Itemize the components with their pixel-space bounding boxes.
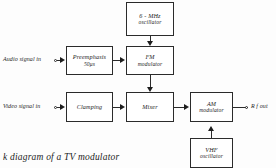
block-vhf-oscillator: VHF oscillator <box>190 138 233 168</box>
block-label-line1: Mixer <box>142 103 158 111</box>
block-label-line2: oscillator <box>200 153 223 160</box>
wire-fm-to-mixer <box>150 75 151 87</box>
block-am-modulator: AM modulator <box>190 92 233 122</box>
block-label-line1: FM <box>145 53 154 61</box>
block-label-line2: modulator <box>199 107 224 114</box>
tv-modulator-block-diagram: 6 - MHz oscillator Preemphasis 50μs FM m… <box>0 0 276 168</box>
arrowhead-down-6mhz-to-fm <box>147 41 153 46</box>
block-label-line2: oscillator <box>139 19 162 26</box>
wire-vhf-to-am <box>211 131 212 138</box>
arrowhead-right-mixer-to-am <box>184 104 189 110</box>
block-clamping: Clamping <box>66 92 113 122</box>
label-video-signal-in: Video signal in <box>3 103 40 109</box>
block-fm-modulator: FM modulator <box>126 46 174 75</box>
arrowhead-right-audio-in <box>60 57 65 63</box>
block-mixer: Mixer <box>126 92 174 122</box>
arrowhead-down-fm-to-mixer <box>147 87 153 92</box>
block-label-line2: 50μs <box>84 61 95 68</box>
block-preemphasis: Preemphasis 50μs <box>66 46 113 75</box>
arrowhead-right-video-in <box>60 104 65 110</box>
arrowhead-right-clamping-to-mixer <box>120 104 125 110</box>
block-label-line1: 6 - MHz <box>139 12 160 20</box>
arrowhead-up-vhf-to-am <box>208 126 214 131</box>
block-label-line2: modulator <box>138 61 163 68</box>
block-label-line1: AM <box>207 100 216 108</box>
block-label-line1: Preemphasis <box>73 53 106 61</box>
block-label-line1: VHF <box>205 146 217 154</box>
block-6mhz-oscillator: 6 - MHz oscillator <box>126 2 174 36</box>
rf-output-terminal <box>245 106 248 109</box>
block-label-line1: Clamping <box>77 103 103 111</box>
label-rf-out: R f out <box>251 103 268 109</box>
arrowhead-right-preemphasis-to-fm <box>120 57 125 63</box>
figure-caption: k diagram of a TV modulator <box>3 152 119 162</box>
label-audio-signal-in: Audio signal in <box>3 56 41 62</box>
